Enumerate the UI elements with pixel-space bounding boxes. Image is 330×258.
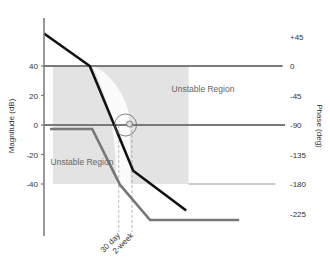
bode-plot: 30 day2-week 40200-20-40 +450-45-90-135-… — [0, 0, 330, 258]
left-axis-ticks: 40200-20-40 — [26, 62, 44, 189]
left-tick-label: 0 — [34, 121, 39, 130]
left-tick-label: 40 — [29, 62, 38, 71]
right-tick-label: -135 — [290, 151, 307, 160]
left-tick-label: -20 — [26, 151, 38, 160]
left-tick-label: 20 — [29, 92, 38, 101]
right-tick-label: -90 — [290, 121, 302, 130]
left-tick-label: -40 — [26, 180, 38, 189]
right-axis-title: Phase (deg) — [315, 104, 324, 148]
crossover-point — [127, 121, 133, 127]
right-tick-label: 0 — [290, 62, 295, 71]
left-axis-title: Magnitude (dB) — [7, 98, 16, 153]
right-tick-label: -180 — [290, 180, 307, 189]
unstable-region-label-upper: Unstable Region — [172, 84, 235, 94]
right-tick-label: +45 — [290, 33, 304, 42]
right-axis-ticks: +450-45-90-135-180-225 — [290, 33, 307, 219]
unstable-region-label-lower: Unstable Region — [51, 157, 114, 167]
right-tick-label: -225 — [290, 210, 307, 219]
right-tick-label: -45 — [290, 92, 302, 101]
